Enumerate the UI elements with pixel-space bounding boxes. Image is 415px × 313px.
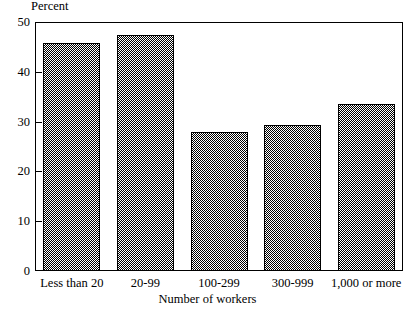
bars-layer — [35, 22, 403, 271]
bar-chart-figure: Percent 01020304050 Less than 2020-99100… — [0, 0, 415, 313]
y-tick-label: 30 — [0, 116, 30, 129]
x-tick-label: Less than 20 — [35, 276, 109, 290]
bar — [117, 35, 174, 271]
x-tick-label: 100-299 — [182, 276, 256, 290]
y-tick-label: 40 — [0, 66, 30, 79]
x-tick-label: 1,000 or more — [329, 276, 403, 290]
bar — [264, 125, 321, 271]
bar — [338, 104, 395, 271]
y-tick-label: 20 — [0, 165, 30, 178]
bar — [43, 43, 100, 271]
x-tick-label: 20-99 — [109, 276, 183, 290]
bar — [191, 132, 248, 271]
x-axis-title: Number of workers — [0, 292, 415, 306]
y-tick-label: 10 — [0, 215, 30, 228]
y-tick-label: 50 — [0, 16, 30, 29]
y-axis-title: Percent — [31, 0, 68, 13]
y-tick-label: 0 — [0, 265, 30, 278]
x-tick-label: 300-999 — [256, 276, 330, 290]
